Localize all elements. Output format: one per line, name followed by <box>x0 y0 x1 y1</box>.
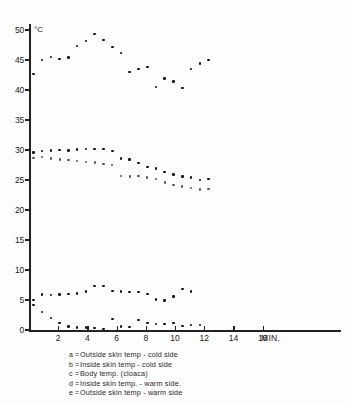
data-point-e <box>181 325 184 328</box>
data-point-e <box>120 325 123 328</box>
data-point-b <box>207 178 210 181</box>
legend-item: a=Outside skin temp - cold side <box>69 350 299 360</box>
data-point-b <box>155 167 158 170</box>
data-point-a <box>128 71 131 74</box>
data-point-e <box>32 299 35 302</box>
data-point-b <box>190 176 193 179</box>
y-tick: 10 <box>0 266 24 275</box>
data-point-c <box>199 188 201 190</box>
legend-label: Body temp. (cloaca) <box>80 369 148 378</box>
y-tick-label: 50 <box>2 26 24 35</box>
data-point-a <box>199 62 202 65</box>
data-point-c <box>164 181 166 183</box>
y-axis-line <box>29 24 31 332</box>
data-point-e <box>199 324 202 327</box>
data-point-e <box>163 323 166 326</box>
y-tick: 15 <box>0 236 24 245</box>
data-point-a <box>137 68 140 71</box>
data-point-c <box>137 175 139 177</box>
data-point-e <box>128 326 131 329</box>
data-point-c <box>41 156 43 158</box>
y-tick: 25 <box>0 176 24 185</box>
data-point-e <box>190 324 193 327</box>
data-point-d <box>190 290 193 293</box>
data-point-d <box>137 291 140 294</box>
data-point-a <box>163 77 166 80</box>
data-point-c <box>50 157 52 159</box>
data-point-a <box>172 80 175 83</box>
y-tick-mark <box>25 59 30 60</box>
data-point-d <box>67 293 70 296</box>
y-tick: 30 <box>0 146 24 155</box>
y-tick: 40 <box>0 86 24 95</box>
data-point-d <box>58 293 61 296</box>
y-tick: 20 <box>0 206 24 215</box>
legend-item: e=Outside skin temp - warm side <box>69 388 299 398</box>
x-tick-mark <box>87 326 88 331</box>
data-point-c <box>67 159 69 161</box>
data-point-e <box>50 317 53 320</box>
y-tick-mark <box>25 269 30 270</box>
data-point-d <box>146 293 149 296</box>
data-point-d <box>120 290 123 293</box>
data-point-e <box>137 319 140 322</box>
x-tick-label: 10 <box>164 333 186 343</box>
y-tick: 5 <box>0 296 24 305</box>
legend-label: Outside skin temp - cold side <box>80 350 178 359</box>
y-tick-mark <box>25 209 30 210</box>
data-point-a <box>111 46 114 49</box>
data-point-b <box>93 148 96 151</box>
x-tick-mark <box>146 326 147 331</box>
data-point-b <box>146 166 149 169</box>
data-point-a <box>50 56 53 59</box>
data-point-d <box>155 298 158 301</box>
x-tick-label: 12 <box>193 333 215 343</box>
y-tick: 50 <box>0 26 24 35</box>
data-point-c <box>32 157 34 159</box>
x-tick-label: 14 <box>222 333 244 343</box>
data-point-d <box>172 295 175 298</box>
data-point-d <box>93 285 96 288</box>
legend-item: c=Body temp. (cloaca) <box>69 369 299 379</box>
data-point-c <box>111 164 113 166</box>
data-point-e <box>67 325 70 328</box>
y-tick-mark <box>25 119 30 120</box>
data-point-a <box>67 56 70 59</box>
data-point-c <box>207 188 209 190</box>
y-tick-label: 20 <box>2 206 24 215</box>
data-point-e <box>102 328 105 331</box>
y-tick-label: 0 <box>2 326 24 335</box>
data-point-d <box>76 292 79 295</box>
data-point-a <box>146 66 149 69</box>
data-point-a <box>58 58 61 61</box>
data-point-b <box>50 149 53 152</box>
y-tick-label: 5 <box>2 296 24 305</box>
y-tick-mark <box>25 89 30 90</box>
plot-area: °C MIN. 05101520253035404550 24681012141… <box>0 0 351 345</box>
data-point-b <box>102 148 105 151</box>
data-point-d <box>111 290 114 293</box>
x-tick-label: 2 <box>47 333 69 343</box>
data-point-c <box>76 160 78 162</box>
data-point-d <box>50 294 53 297</box>
data-point-a <box>181 87 184 90</box>
legend-label: Outside skin temp - warm side <box>80 388 182 397</box>
data-point-d <box>181 288 184 291</box>
data-point-c <box>59 158 61 160</box>
data-point-e <box>146 322 149 325</box>
data-point-e <box>41 311 44 314</box>
data-point-c <box>181 185 183 187</box>
y-tick: 35 <box>0 116 24 125</box>
data-point-d <box>85 290 88 293</box>
x-tick-label: 6 <box>106 333 128 343</box>
data-point-b <box>199 179 202 182</box>
y-tick-label: 15 <box>2 236 24 245</box>
data-point-b <box>172 173 175 176</box>
data-point-d <box>163 299 166 302</box>
y-tick-label: 45 <box>2 56 24 65</box>
data-point-a <box>76 45 79 48</box>
x-axis-line <box>29 330 341 332</box>
data-point-d <box>32 304 35 307</box>
data-point-d <box>102 285 105 288</box>
data-point-a <box>120 52 123 55</box>
